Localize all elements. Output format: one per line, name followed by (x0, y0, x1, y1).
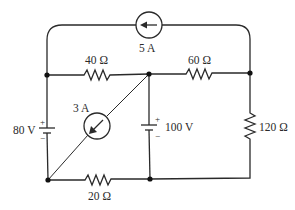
label-20ohm: 20 Ω (88, 191, 111, 203)
top-loop-wire-left (47, 25, 136, 75)
diagonal-wire-lower (48, 135, 88, 180)
minus-80v: − (40, 134, 45, 143)
circuit-wiring (0, 0, 295, 210)
minus-100v: − (155, 132, 160, 141)
current-source-3a-icon (84, 113, 110, 139)
label-80v: 80 V (13, 125, 35, 137)
node-bottom-left (45, 177, 50, 182)
wire-100v-bottom (149, 130, 150, 179)
diagonal-wire-upper (107, 74, 149, 116)
plus-80v: + (40, 118, 45, 127)
label-60ohm: 60 Ω (188, 55, 211, 67)
label-5a: 5 A (139, 43, 155, 55)
label-100v: 100 V (165, 122, 193, 134)
wire-40ohm (47, 70, 149, 80)
wire-20ohm (48, 175, 150, 185)
label-120ohm: 120 Ω (259, 122, 288, 134)
node-bottom-mid (147, 176, 152, 181)
wire-60ohm (149, 69, 250, 79)
node-top-left (44, 72, 49, 77)
current-source-5a-icon (136, 12, 162, 38)
label-40ohm: 40 Ω (85, 55, 108, 67)
plus-100v: + (155, 115, 160, 124)
circuit-diagram: 5 A 40 Ω 60 Ω 3 A 80 V + − 100 V + − 120… (0, 0, 295, 210)
label-3a: 3 A (73, 103, 89, 115)
node-top-right (247, 70, 252, 75)
wire-80v-bottom (47, 133, 48, 180)
node-top-mid (146, 71, 151, 76)
